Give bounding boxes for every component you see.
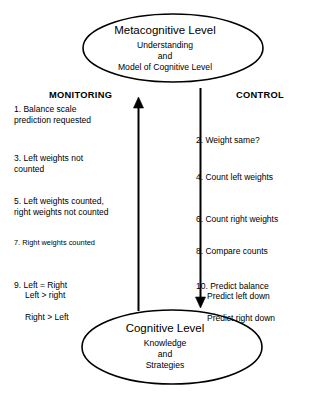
control-step-4: 4. Count left weights	[196, 172, 273, 183]
cognitive-level-line-1: Knowledge	[70, 338, 260, 349]
control-step-6: 6. Count right weights	[196, 214, 278, 225]
monitoring-arrow-head	[134, 97, 144, 108]
control-step-10: 10. Predict balance Predict left down Pr…	[196, 270, 275, 334]
metacognitive-model-diagram: Metacognitive Level Understanding and Mo…	[0, 0, 330, 400]
control-step-8: 8. Compare counts	[196, 246, 268, 257]
metacognitive-level-title: Metacognitive Level	[70, 24, 260, 37]
monitoring-step-9: 9. Left = Right Left > right Right > Lef…	[14, 269, 69, 333]
monitoring-step-5: 5. Left weights counted, right weights n…	[14, 196, 109, 217]
monitoring-step-1: 1. Balance scale prediction requested	[14, 104, 91, 125]
monitoring-step-3: 3. Left weights not counted	[14, 153, 83, 174]
metacognitive-level-line-2: and	[70, 51, 260, 62]
monitoring-step-9-line-2: Left > right	[14, 290, 69, 301]
control-column-header: CONTROL	[236, 90, 284, 101]
monitoring-step-9-line-1: 9. Left = Right	[14, 280, 67, 290]
metacognitive-level-node-text: Metacognitive Level Understanding and Mo…	[70, 24, 260, 73]
monitoring-step-7: 7. Right weights counted	[14, 238, 95, 247]
control-step-10-line-2: Predict left down	[196, 291, 275, 302]
cognitive-level-line-3: Strategies	[70, 360, 260, 371]
metacognitive-level-line-3: Model of Cognitive Level	[70, 62, 260, 73]
metacognitive-level-line-1: Understanding	[70, 40, 260, 51]
monitoring-column-header: MONITORING	[49, 90, 112, 101]
control-step-10-line-3: Predict right down	[196, 313, 275, 324]
control-step-10-line-1: 10. Predict balance	[196, 281, 269, 291]
cognitive-level-line-2: and	[70, 349, 260, 360]
control-step-2: 2. Weight same?	[196, 135, 260, 146]
monitoring-step-9-line-3: Right > Left	[14, 312, 69, 323]
